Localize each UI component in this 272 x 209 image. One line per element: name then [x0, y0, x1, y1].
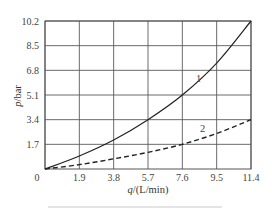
y-axis-ticks: 1.73.45.16.88.510.2 [22, 16, 40, 150]
x-axis-label: q/(L/min) [128, 184, 169, 196]
series-2-label: 2 [200, 123, 205, 134]
pressure-flow-chart: 01.93.85.77.69.511.4 1.73.45.16.88.510.2… [0, 0, 272, 209]
y-tick-label: 5.1 [27, 90, 40, 101]
x-tick-label: 5.7 [142, 172, 155, 183]
series-1-label: 1 [196, 73, 201, 84]
y-axis-label: p/bar [12, 85, 23, 108]
y-tick-label: 1.7 [27, 139, 40, 150]
y-tick-label: 10.2 [22, 16, 40, 27]
x-tick-label: 11.4 [242, 172, 259, 183]
x-tick-label: 3.8 [107, 172, 120, 183]
x-tick-label: 1.9 [73, 172, 86, 183]
y-tick-label: 6.8 [27, 65, 40, 76]
x-tick-label: 7.6 [176, 172, 189, 183]
x-axis-ticks: 01.93.85.77.69.511.4 [35, 172, 260, 183]
x-tick-label: 9.5 [210, 172, 223, 183]
x-tick-label: 0 [35, 172, 40, 183]
y-tick-label: 3.4 [27, 114, 40, 125]
bottom-separator [48, 206, 222, 208]
y-tick-label: 8.5 [27, 40, 40, 51]
grid-lines [45, 21, 251, 169]
